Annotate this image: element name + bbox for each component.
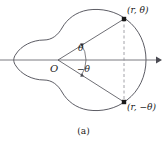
point-marker-positive — [122, 17, 126, 21]
label-point-positive: (r, θ) — [127, 6, 148, 15]
label-angle-positive: θ — [78, 44, 83, 53]
polar-symmetry-figure: (r, θ) (r, −θ) O θ −θ (a) — [0, 0, 167, 144]
label-angle-negative: −θ — [77, 65, 90, 74]
ray-negative-theta — [58, 60, 124, 102]
figure-caption: (a) — [0, 126, 167, 136]
label-origin: O — [50, 64, 58, 74]
point-marker-negative — [122, 100, 126, 104]
label-point-negative: (r, −θ) — [127, 103, 156, 112]
axis-arrowhead-icon — [156, 57, 162, 64]
ray-positive-theta — [58, 19, 124, 60]
